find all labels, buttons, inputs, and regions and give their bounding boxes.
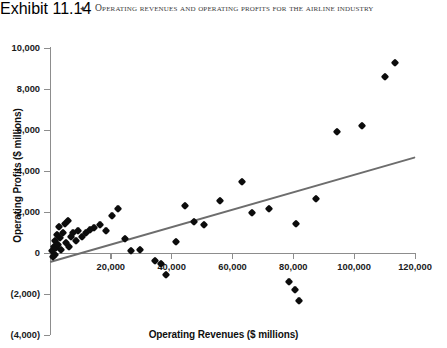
data-point	[135, 245, 144, 254]
data-point	[380, 72, 389, 81]
x-axis-title: Operating Revenues ($ millions)	[0, 329, 447, 340]
data-point	[172, 237, 181, 246]
data-point	[237, 178, 246, 187]
data-points-layer	[0, 34, 447, 348]
exhibit-title: Operating Revenues and Operating Profits…	[95, 2, 425, 14]
data-point	[312, 194, 321, 203]
scatter-chart: 10,0008,0006,0004,0002,0000(2,000)(4,000…	[0, 34, 447, 348]
data-point	[114, 204, 123, 213]
data-point	[295, 297, 304, 306]
data-point	[216, 196, 225, 205]
data-point	[248, 208, 257, 217]
exhibit-header: Exhibit 11.14 ✦ Operating Revenues and O…	[0, 0, 447, 34]
data-point	[357, 121, 366, 130]
data-point	[120, 234, 129, 243]
data-point	[290, 285, 299, 294]
diamond-bullet-icon: ✦	[79, 4, 87, 15]
data-point	[102, 227, 111, 236]
data-point	[65, 242, 74, 251]
data-point	[108, 212, 117, 221]
data-point	[161, 270, 170, 279]
data-point	[156, 260, 165, 269]
data-point	[190, 218, 199, 227]
data-point	[199, 221, 208, 230]
data-point	[391, 59, 400, 68]
data-point	[284, 277, 293, 286]
data-point	[181, 201, 190, 210]
data-point	[264, 204, 273, 213]
y-axis-title: Operating Profits ($ millions)	[12, 76, 23, 276]
data-point	[333, 128, 342, 137]
data-point	[126, 246, 135, 255]
data-point	[292, 220, 301, 229]
